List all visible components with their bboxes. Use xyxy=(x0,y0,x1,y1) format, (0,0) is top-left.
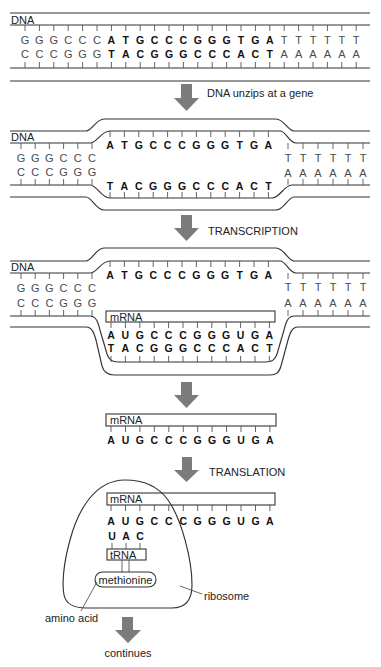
nucleotide-base: G xyxy=(165,342,173,354)
nucleotide-base: A xyxy=(266,434,274,446)
stage-dna-double-strand: DNA xyxy=(10,13,370,81)
nucleotide-base: G xyxy=(194,34,202,46)
nucleotide-base: C xyxy=(208,48,216,60)
nucleotide-base: T xyxy=(123,34,130,46)
nucleotide-base: C xyxy=(60,282,68,294)
nucleotide-base: C xyxy=(50,48,58,60)
nucleotide-base: G xyxy=(208,434,216,446)
nucleotide-base: C xyxy=(151,34,159,46)
nucleotide-base: C xyxy=(165,434,173,446)
nucleotide-base: A xyxy=(266,515,274,527)
nucleotide-base: A xyxy=(122,342,130,354)
nucleotide-base: T xyxy=(121,269,128,281)
nucleotide-base: G xyxy=(78,48,87,60)
nucleotide-base: C xyxy=(74,152,82,164)
nucleotide-base: C xyxy=(74,282,82,294)
nucleotide-base: T xyxy=(330,152,337,164)
outer-bottom-line xyxy=(10,327,370,375)
nucleotide-base: C xyxy=(21,48,29,60)
nucleotide-base: C xyxy=(194,48,202,60)
dna-label: DNA xyxy=(11,131,35,143)
nucleotide-base: A xyxy=(359,297,367,309)
nucleotide-base: C xyxy=(178,139,186,151)
nucleotide-base: G xyxy=(221,269,229,281)
nucleotide-base: A xyxy=(236,180,244,192)
nucleotide-base: G xyxy=(164,180,172,192)
nucleotide-base: C xyxy=(250,180,258,192)
nucleotide-base: A xyxy=(108,34,116,46)
nucleotide-base: A xyxy=(265,269,273,281)
nucleotide-base: A xyxy=(314,297,322,309)
nucleotide-base: A xyxy=(344,167,352,179)
nucleotide-base: G xyxy=(88,297,97,309)
nucleotide-base: C xyxy=(79,34,87,46)
nucleotide-base: C xyxy=(60,152,68,164)
nucleotide-base: G xyxy=(221,139,229,151)
nucleotide-base: G xyxy=(223,34,231,46)
mrna-label: mRNA xyxy=(110,311,143,323)
nucleotide-base: G xyxy=(251,515,259,527)
nucleotide-base: U xyxy=(237,515,245,527)
nucleotide-base: A xyxy=(266,329,274,341)
nucleotide-base: C xyxy=(135,180,143,192)
nucleotide-base: G xyxy=(45,282,54,294)
nucleotide-base: G xyxy=(136,329,144,341)
nucleotide-base: G xyxy=(31,152,40,164)
nucleotide-base: G xyxy=(207,139,215,151)
step-arrow-continues: continues xyxy=(104,617,152,659)
nucleotide-base: G xyxy=(194,434,202,446)
outer-bottom-line xyxy=(10,197,370,210)
down-arrow-icon xyxy=(174,215,199,241)
nucleotide-base: T xyxy=(345,281,352,293)
nucleotide-base: T xyxy=(324,34,331,46)
nucleotide-base: C xyxy=(31,166,39,178)
nucleotide-base: A xyxy=(107,515,115,527)
nucleotide-base: G xyxy=(135,269,143,281)
nucleotide-base: A xyxy=(353,48,361,60)
nucleotide-base: A xyxy=(295,48,303,60)
step-label-continues: continues xyxy=(104,647,152,659)
nucleotide-base: A xyxy=(237,342,245,354)
nucleotide-base: G xyxy=(207,269,215,281)
nucleotide-base: C xyxy=(207,180,215,192)
nucleotide-base: C xyxy=(149,269,157,281)
nucleotide-base: T xyxy=(330,281,337,293)
nucleotide-base: G xyxy=(165,48,173,60)
nucleotide-base: G xyxy=(193,329,201,341)
nucleotide-base: G xyxy=(151,48,159,60)
nucleotide-base: C xyxy=(252,48,260,60)
nucleotide-base: A xyxy=(106,269,114,281)
nucleotide-base: G xyxy=(135,139,143,151)
nucleotide-base: G xyxy=(150,342,158,354)
nucleotide-base: G xyxy=(74,166,83,178)
nucleotide-base: C xyxy=(149,139,157,151)
nucleotide-base: U xyxy=(237,434,245,446)
nucleotide-base: T xyxy=(236,269,243,281)
nucleotide-base: A xyxy=(359,167,367,179)
nucleotide-base: A xyxy=(107,434,115,446)
nucleotide-base: T xyxy=(310,34,317,46)
nucleotide-base: A xyxy=(329,167,337,179)
nucleotide-base: T xyxy=(266,342,273,354)
nucleotide-base: C xyxy=(180,515,188,527)
nucleotide-base: C xyxy=(151,515,159,527)
mrna-label: mRNA xyxy=(110,414,143,426)
nucleotide-base: C xyxy=(165,515,173,527)
nucleotide-base: G xyxy=(223,434,231,446)
template-strand-backbone xyxy=(10,316,370,362)
nucleotide-base: C xyxy=(164,139,172,151)
nucleotide-base: A xyxy=(299,167,307,179)
nucleotide-base: G xyxy=(222,329,230,341)
nucleotide-base: G xyxy=(136,434,144,446)
nucleotide-base: C xyxy=(17,166,25,178)
outer-top-line xyxy=(10,248,370,261)
nucleotide-base: G xyxy=(59,297,68,309)
nucleotide-base: A xyxy=(265,139,273,151)
template-strand-backbone xyxy=(10,185,370,198)
nucleotide-base: A xyxy=(338,48,346,60)
nucleotide-base: A xyxy=(309,48,317,60)
dna-label: DNA xyxy=(11,261,35,273)
nucleotide-base: T xyxy=(108,48,115,60)
nucleotide-base: T xyxy=(285,281,292,293)
protein-synthesis-diagram: DNA DNA unzips at a gene DNA TRANSCRIPTI… xyxy=(0,0,381,667)
